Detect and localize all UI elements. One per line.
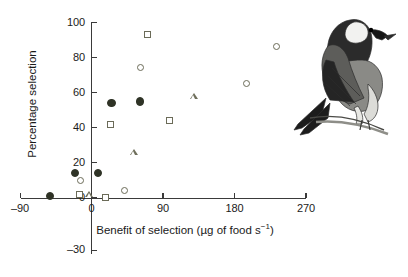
x-tick-label: 0	[70, 202, 114, 214]
y-tick-label: 60	[51, 86, 85, 98]
x-tick-label: 90	[141, 202, 185, 214]
scatter-chart-figure: –30020406080100 –90090180270 Percentage …	[0, 0, 408, 277]
data-point-circle-open	[121, 187, 128, 194]
x-tick-mark	[20, 193, 21, 198]
y-tick-mark	[92, 162, 97, 163]
data-point-square-open	[107, 121, 114, 128]
data-point-triangle-open	[85, 191, 93, 197]
data-point-circle-filled	[71, 169, 79, 177]
x-tick-label: 180	[213, 202, 257, 214]
x-tick-label: –90	[0, 202, 42, 214]
data-point-triangle-open	[130, 149, 138, 155]
x-tick-label: 270	[284, 202, 328, 214]
data-point-circle-filled	[136, 97, 144, 105]
bird-illustration	[292, 2, 404, 136]
x-tick-mark	[305, 193, 306, 198]
x-tick-mark	[234, 193, 235, 198]
data-point-square-open	[102, 194, 109, 201]
y-tick-label: –30	[51, 243, 85, 255]
data-point-circle-open	[243, 80, 250, 87]
data-point-square-open	[166, 117, 173, 124]
x-tick-mark	[162, 193, 163, 198]
data-point-square-open	[76, 191, 83, 198]
y-tick-mark	[92, 250, 97, 251]
y-axis-title: Percentage selection	[26, 44, 38, 164]
y-tick-mark	[92, 127, 97, 128]
y-tick-mark	[92, 57, 97, 58]
data-point-triangle-open	[190, 93, 198, 99]
data-point-circle-open	[77, 177, 84, 184]
data-point-circle-open	[137, 64, 144, 71]
x-axis-title: Benefit of selection (µg of food s−1)	[60, 222, 310, 236]
y-tick-mark	[92, 197, 97, 198]
y-tick-label: 80	[51, 51, 85, 63]
y-tick-mark	[92, 22, 97, 23]
data-point-circle-open	[273, 43, 280, 50]
y-tick-label: 20	[51, 156, 85, 168]
y-tick-label: 40	[51, 121, 85, 133]
data-point-circle-filled	[94, 169, 102, 177]
data-point-square-open	[144, 31, 151, 38]
y-tick-label: 100	[51, 16, 85, 28]
data-point-circle-filled	[107, 99, 115, 107]
y-tick-mark	[92, 92, 97, 93]
